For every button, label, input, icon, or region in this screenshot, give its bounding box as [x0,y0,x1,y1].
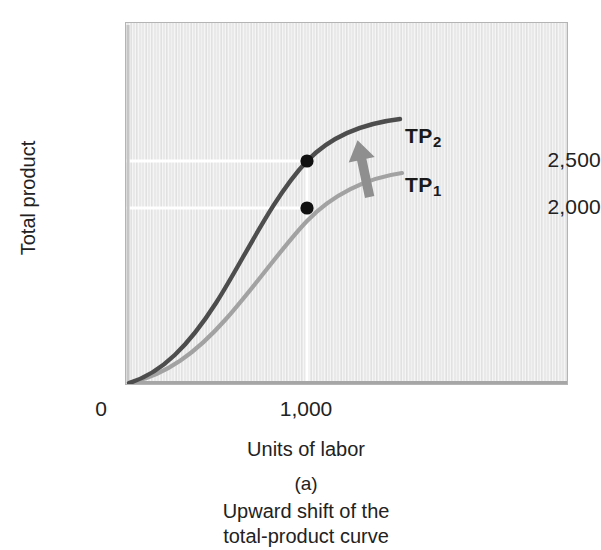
y-tick-label-2000: 2,000 [481,196,601,217]
curve-label-tp1-subscript: 1 [433,182,442,199]
x-axis-title: Units of labor [156,438,456,460]
y-axis-title: Total product [18,108,38,288]
curve-label-tp1: TP1 [405,173,441,197]
curve-tp1 [129,173,402,383]
curve-label-tp1-base: TP [405,173,432,196]
x-tick-label-1000: 1,000 [256,398,356,420]
caption-line-2: total-product curve [156,525,456,547]
point-tp1-marker [300,201,313,214]
y-tick-label-2500: 2,500 [481,149,601,170]
caption-line-1: Upward shift of the [156,500,456,522]
curve-label-tp2-base: TP [405,124,432,147]
curve-label-tp2: TP2 [405,124,441,148]
curve-label-tp2-subscript: 2 [433,133,442,150]
figure-panel-a: Total product 2,500 2,000 0 1,000 TP2 TP… [0,0,601,550]
x-tick-label-0: 0 [86,398,116,420]
panel-letter: (a) [156,473,456,494]
point-tp2-marker [300,154,313,167]
